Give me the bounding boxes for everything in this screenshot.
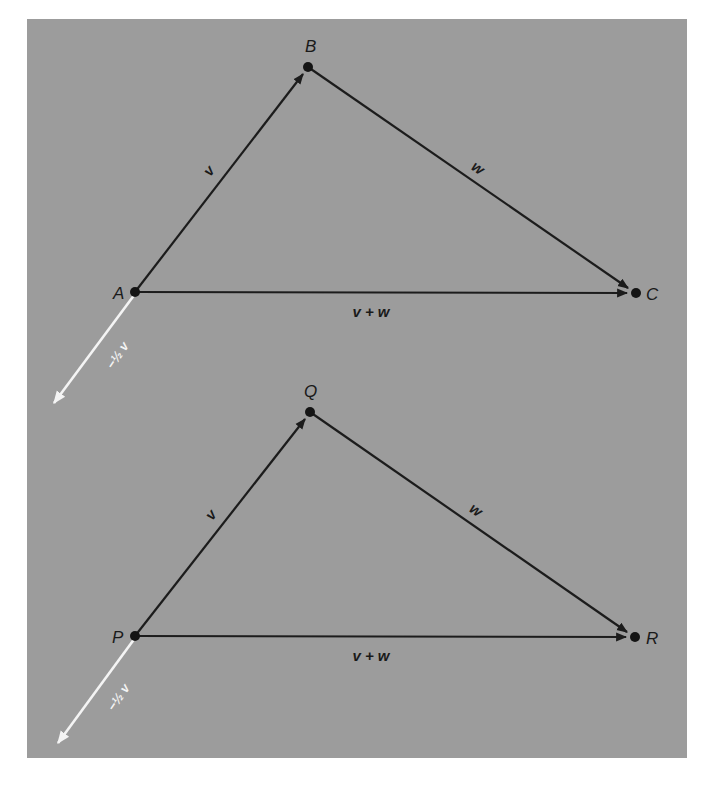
- label-Q: Q: [304, 382, 317, 401]
- label-v-plus-w: v + w: [352, 303, 390, 320]
- label-v-plus-w: v + w: [352, 647, 390, 664]
- vector-addition-figure: A B C v w v + w −½ v P Q R v w v + w −½ …: [0, 0, 715, 789]
- label-P: P: [112, 628, 124, 647]
- point-B: [303, 62, 313, 72]
- point-P: [130, 631, 140, 641]
- vector-sum-PR: [135, 636, 626, 637]
- label-C: C: [646, 285, 659, 304]
- point-R: [630, 632, 640, 642]
- point-A: [130, 287, 140, 297]
- label-R: R: [646, 629, 658, 648]
- label-B: B: [305, 37, 316, 56]
- point-C: [631, 288, 641, 298]
- vector-sum-AC: [135, 292, 627, 293]
- label-A: A: [112, 284, 124, 303]
- point-Q: [305, 407, 315, 417]
